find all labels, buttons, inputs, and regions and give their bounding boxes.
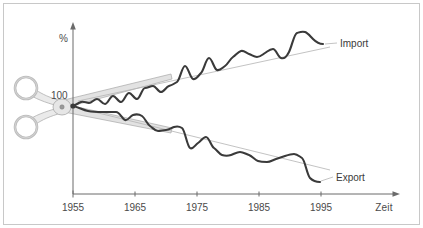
x-axis-label: Zeit <box>375 202 392 213</box>
figure-container: % 100 1955 1965 1975 1985 1995 Zeit Impo… <box>0 0 423 228</box>
origin-value-label: 100 <box>51 90 68 101</box>
export-trend-line <box>78 108 330 170</box>
x-tick-label-1955: 1955 <box>62 202 85 213</box>
x-tick-label-1995: 1995 <box>310 202 333 213</box>
import-trend-line <box>78 47 330 101</box>
x-tick-label-1965: 1965 <box>124 202 147 213</box>
x-tick-label-1985: 1985 <box>248 202 271 213</box>
y-axis-label: % <box>59 33 68 44</box>
export-series-label: Export <box>336 172 365 183</box>
export-label-leader <box>321 177 333 181</box>
y-axis-arrow <box>70 22 76 30</box>
import-series-label: Import <box>340 38 369 49</box>
scissors-chart: % 100 1955 1965 1975 1985 1995 Zeit Impo… <box>0 0 423 228</box>
origin-point-marker <box>70 103 75 108</box>
import-label-leader <box>325 43 337 44</box>
x-tick-label-1975: 1975 <box>186 202 209 213</box>
scissors-icon <box>15 74 172 138</box>
x-axis-arrow <box>393 191 401 197</box>
